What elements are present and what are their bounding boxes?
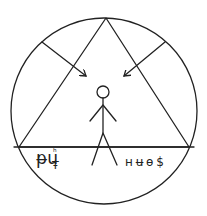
triangle <box>19 18 189 147</box>
left-glyph-subscript: Ŧ <box>52 160 59 171</box>
stick-figure <box>90 86 117 165</box>
outer-circle <box>11 18 197 204</box>
figure-legs <box>92 133 117 165</box>
left-glyph-superscript: ʰ <box>53 148 57 157</box>
figure-head <box>97 86 109 98</box>
right-glyph-label: ʜ ʉ ɵ $ <box>125 156 163 168</box>
right-arrow-icon <box>124 42 165 76</box>
left-arrow-icon <box>42 42 86 76</box>
diagram-canvas <box>0 0 207 216</box>
